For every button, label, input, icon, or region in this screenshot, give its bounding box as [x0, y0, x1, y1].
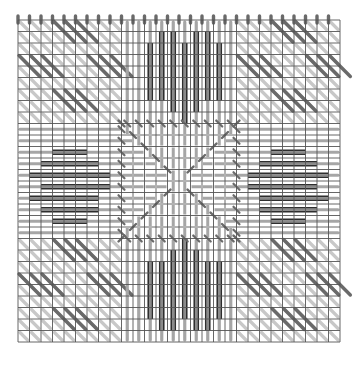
needlepoint-chart — [0, 0, 358, 371]
stitch-diagram — [0, 0, 358, 371]
